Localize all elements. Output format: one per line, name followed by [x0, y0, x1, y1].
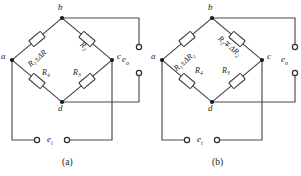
panel-caption-a: (a)	[62, 157, 73, 167]
node-label-d-b: d	[208, 104, 213, 113]
node-label-c-a: c	[117, 52, 121, 61]
node-label-b-b: b	[208, 3, 213, 12]
wire-d-to-output-bottom	[212, 76, 295, 102]
resistor-body-upper-left-b	[179, 31, 195, 46]
input-port-label-a: ei	[47, 135, 53, 146]
resistor-body-upper-left-a	[29, 31, 45, 46]
input-port-label-b: ei	[197, 135, 203, 146]
resistor-label-lower-left-b: R4	[195, 66, 203, 75]
node-label-b-a: b	[58, 3, 63, 12]
terminal-input-right-b	[214, 137, 219, 142]
bridge-diagram-b: b a c d R1±ΔR1 R2∓ΔR2 R4 R3 eo ei (b)	[150, 0, 301, 176]
node-label-d-a: d	[58, 104, 63, 113]
terminal-input-left-a	[34, 137, 39, 142]
bridge-diagram-a: b a c d R1±ΔR R2 R4 R3 eo ei (a)	[0, 0, 151, 176]
terminal-output-top-a	[136, 44, 141, 49]
resistor-label-lower-right-a: R3	[73, 68, 81, 77]
wire-a-to-input-left	[162, 60, 184, 140]
circuit-schematic-a	[0, 0, 151, 176]
wire-a-to-input-left	[12, 60, 34, 140]
terminal-output-top-b	[292, 44, 297, 49]
node-label-c-b: c	[267, 52, 271, 61]
terminal-input-left-b	[184, 137, 189, 142]
terminal-input-right-a	[64, 137, 69, 142]
node-label-a-a: a	[1, 52, 6, 61]
node-dot-b-b	[210, 16, 214, 20]
node-dot-c-a	[110, 58, 114, 62]
node-dot-b-a	[60, 16, 64, 20]
figure-canvas: b a c d R1±ΔR R2 R4 R3 eo ei (a)	[0, 0, 301, 176]
wire-b-to-output-top	[62, 18, 139, 44]
resistor-label-lower-left-a: R4	[42, 68, 50, 77]
output-port-label-a: eo	[122, 55, 129, 66]
resistor-body-lower-right-b	[229, 73, 245, 88]
resistor-label-lower-right-b: R3	[222, 66, 230, 75]
terminal-output-bottom-a	[136, 70, 141, 75]
panel-caption-b: (b)	[212, 157, 223, 167]
resistor-body-lower-right-a	[79, 73, 95, 88]
node-label-a-b: a	[151, 52, 156, 61]
circuit-schematic-b	[150, 0, 301, 176]
node-dot-a-a	[10, 58, 14, 62]
output-port-label-b: eo	[281, 55, 288, 66]
terminal-output-bottom-b	[292, 70, 297, 75]
node-dot-c-b	[260, 58, 264, 62]
wire-d-to-output-bottom	[62, 76, 139, 102]
resistor-body-lower-left-b	[179, 73, 195, 88]
node-dot-a-b	[160, 58, 164, 62]
